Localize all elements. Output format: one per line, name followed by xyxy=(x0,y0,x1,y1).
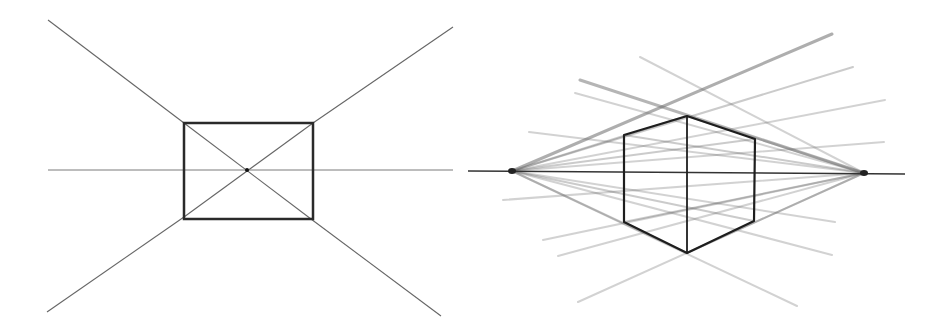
right-vp-ray xyxy=(624,173,864,222)
orthogonal-line xyxy=(48,20,184,123)
orthogonal-line xyxy=(311,219,441,316)
right-vp-ray xyxy=(575,93,864,173)
one-point-perspective-panel xyxy=(47,20,453,316)
vanishing-point xyxy=(245,168,249,172)
diagram-canvas xyxy=(0,0,949,330)
orthogonal-line xyxy=(47,217,184,312)
right-vp-ray xyxy=(529,132,864,173)
vp-right-point xyxy=(860,170,868,176)
perspective-diagram xyxy=(0,0,949,330)
two-point-perspective-panel xyxy=(468,34,905,306)
orthogonal-line xyxy=(313,27,453,123)
right-vp-ray xyxy=(503,173,864,200)
vp-left-point xyxy=(508,168,516,174)
